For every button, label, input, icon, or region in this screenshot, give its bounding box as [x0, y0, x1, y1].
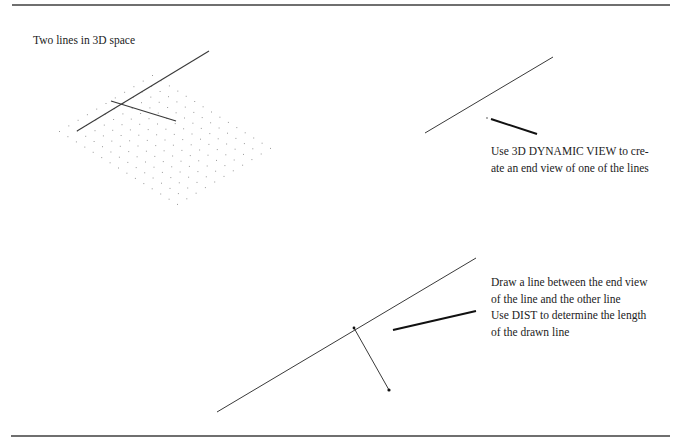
perpendicular-end-point: [387, 388, 390, 391]
distance-leader: [393, 311, 476, 330]
isometric-dot-grid: [59, 75, 271, 205]
iso-line-a: [77, 51, 209, 131]
iso-line-b: [111, 101, 176, 121]
distance-line: [217, 258, 476, 412]
drawing-canvas: [0, 0, 678, 440]
perpendicular-start-point: [353, 327, 356, 330]
perpendicular-line: [354, 328, 389, 390]
end-view-leader: [491, 119, 537, 134]
end-view-point: [486, 117, 488, 119]
end-view-line: [425, 57, 553, 133]
